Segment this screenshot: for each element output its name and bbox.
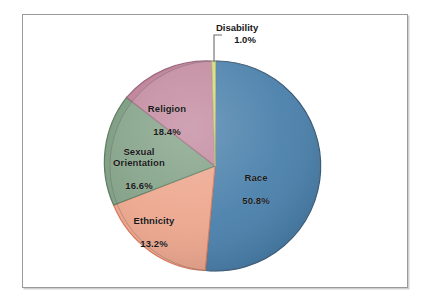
pie-label-disability-value: 1.0%	[216, 34, 274, 46]
pie-chart: Race 50.8% Religion 18.4% Sexual Orienta…	[0, 0, 431, 302]
pie-label-sexual-orientation-value: 16.6%	[101, 180, 177, 192]
pie-label-ethnicity-name: Ethnicity	[118, 215, 190, 227]
pie-label-disability-name: Disability	[216, 22, 258, 33]
pie-label-disability: Disability 1.0%	[216, 22, 296, 46]
pie-label-ethnicity-value: 13.2%	[118, 238, 190, 250]
pie-label-race-value: 50.8%	[224, 195, 288, 207]
pie-label-religion-name: Religion	[132, 103, 202, 115]
pie-label-race-name: Race	[224, 172, 288, 184]
pie-label-ethnicity: Ethnicity 13.2%	[118, 203, 190, 261]
pie-label-sexual-orientation-name: Sexual Orientation	[101, 146, 177, 169]
pie-label-sexual-orientation: Sexual Orientation 16.6%	[101, 134, 177, 203]
pie-label-race: Race 50.8%	[224, 160, 288, 218]
